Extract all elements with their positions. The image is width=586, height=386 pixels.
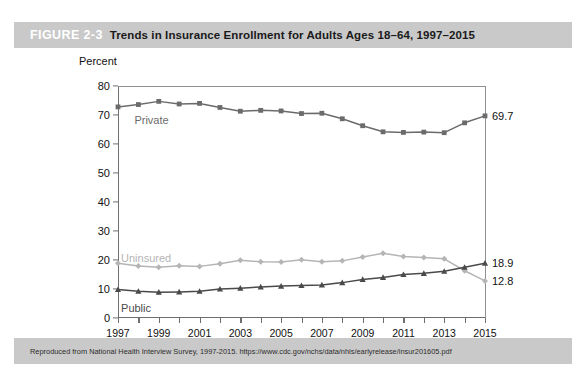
data-point-marker: [421, 130, 426, 135]
end-value-uninsured: 12.8: [492, 275, 513, 287]
figure-number: FIGURE 2-3: [30, 28, 103, 42]
series-label-uninsured: Uninsured: [121, 252, 171, 264]
figure-card: FIGURE 2-3 Trends in Insurance Enrollmen…: [14, 22, 572, 364]
figure-footer: Reproduced from National Health Intervie…: [14, 338, 572, 364]
data-point-marker: [299, 111, 304, 116]
data-point-marker: [279, 109, 284, 114]
data-point-marker: [401, 130, 406, 135]
data-point-marker: [217, 261, 223, 267]
data-point-marker: [381, 129, 386, 134]
data-point-marker: [278, 259, 284, 265]
data-point-marker: [197, 263, 203, 269]
data-point-marker: [299, 257, 305, 263]
data-point-marker: [380, 250, 386, 256]
data-point-marker: [237, 257, 243, 263]
data-point-marker: [156, 264, 162, 270]
series-private: [116, 99, 488, 135]
data-point-marker: [462, 120, 467, 125]
data-point-marker: [319, 259, 325, 265]
data-point-marker: [360, 123, 365, 128]
series-label-public: Public: [121, 302, 151, 314]
series-label-private: Private: [134, 114, 168, 126]
series-public: [115, 260, 488, 295]
data-point-marker: [258, 259, 264, 265]
data-point-marker: [441, 256, 447, 262]
data-point-marker: [218, 105, 223, 110]
data-point-marker: [176, 263, 182, 269]
figure-header: FIGURE 2-3 Trends in Insurance Enrollmen…: [14, 22, 572, 48]
figure-title: Trends in Insurance Enrollment for Adult…: [110, 29, 475, 41]
data-point-marker: [116, 104, 121, 109]
data-point-marker: [319, 111, 324, 116]
end-value-private: 69.7: [492, 110, 513, 122]
data-point-marker: [400, 254, 406, 260]
chart-series-svg: [14, 48, 572, 338]
source-note: Reproduced from National Health Intervie…: [30, 347, 452, 356]
data-point-marker: [197, 101, 202, 106]
series-line: [118, 101, 485, 132]
data-point-marker: [258, 108, 263, 113]
end-value-public: 18.9: [492, 257, 513, 269]
data-point-marker: [156, 99, 161, 104]
data-point-marker: [360, 254, 366, 260]
data-point-marker: [238, 109, 243, 114]
data-point-marker: [483, 113, 488, 118]
data-point-marker: [136, 102, 141, 107]
data-point-marker: [421, 254, 427, 260]
data-point-marker: [442, 130, 447, 135]
data-point-marker: [482, 278, 488, 284]
data-point-marker: [340, 116, 345, 121]
data-point-marker: [177, 102, 182, 107]
chart-plot-area: Percent 01020304050607080 19971999200120…: [14, 48, 572, 338]
data-point-marker: [339, 258, 345, 264]
